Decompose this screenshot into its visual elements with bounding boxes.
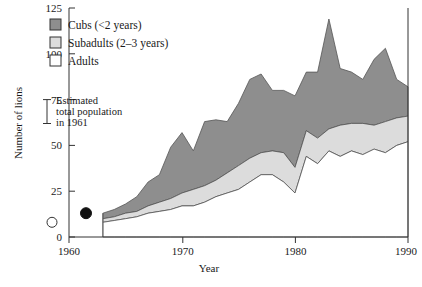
legend-swatch-cubs: [50, 19, 61, 30]
x-tick-label-1960: 1960: [58, 245, 81, 257]
y-axis-title: Number of lions: [12, 87, 24, 159]
legend-label-adults: Adults: [68, 55, 99, 67]
x-tick-label-1970: 1970: [172, 245, 195, 257]
y-tick-label-125: 125: [46, 2, 63, 14]
filled-circle-marker: [81, 208, 92, 219]
x-axis-title: Year: [199, 262, 220, 274]
annotation-line-1: Estimated: [56, 95, 99, 106]
legend-label-cubs: Cubs (<2 years): [68, 19, 142, 32]
legend-label-subadults: Subadults (2–3 years): [68, 37, 168, 50]
legend-swatch-adults: [50, 55, 61, 66]
annotation-line-3: in 1961: [56, 117, 88, 128]
lion-population-stacked-area-chart: 125 100 75 50 25 0 1960 1970 1980 1990 N…: [0, 0, 422, 287]
x-tick-label-1990: 1990: [395, 245, 418, 257]
y-tick-label-25: 25: [51, 185, 63, 197]
y-tick-label-50: 50: [51, 139, 63, 151]
open-circle-marker: [47, 217, 57, 227]
y-tick-label-0: 0: [57, 231, 63, 243]
x-tick-label-1980: 1980: [284, 245, 307, 257]
legend-swatch-subadults: [50, 37, 61, 48]
annotation-line-2: total population: [56, 106, 123, 117]
